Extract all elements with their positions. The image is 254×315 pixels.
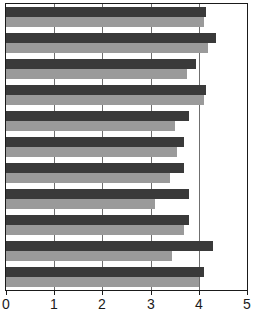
x-tick-label: 4 [195, 296, 203, 312]
bar [6, 163, 184, 173]
bar [6, 147, 177, 157]
bar [6, 59, 196, 69]
bar [6, 173, 170, 183]
x-tick-label: 1 [50, 296, 58, 312]
bar [6, 69, 187, 79]
bar-group [6, 134, 247, 160]
bar-group [6, 82, 247, 108]
bar [6, 215, 189, 225]
x-axis: 012345 [5, 291, 248, 315]
x-tick-label: 2 [98, 296, 106, 312]
bar-group [6, 108, 247, 134]
bar [6, 225, 184, 235]
bar [6, 189, 189, 199]
bar [6, 95, 204, 105]
bar-group [6, 238, 247, 264]
x-tick-label: 3 [147, 296, 155, 312]
bar-group [6, 4, 247, 30]
x-tick-mark [102, 291, 103, 295]
bar [6, 43, 208, 53]
bar-group [6, 160, 247, 186]
bar [6, 251, 172, 261]
bar-group [6, 30, 247, 56]
x-tick-label: 0 [2, 296, 10, 312]
bar [6, 33, 216, 43]
bar-group [6, 56, 247, 82]
bar-chart: 012345 [0, 0, 254, 315]
bar [6, 267, 204, 277]
bar-group [6, 212, 247, 238]
bar [6, 121, 175, 131]
x-tick-mark [54, 291, 55, 295]
bar-group [6, 186, 247, 212]
bars-layer [6, 4, 247, 290]
bar [6, 7, 206, 17]
bar [6, 85, 206, 95]
bar [6, 111, 189, 121]
x-tick-mark [247, 291, 248, 295]
x-tick-mark [6, 291, 7, 295]
bar [6, 17, 204, 27]
bar [6, 199, 155, 209]
bar [6, 277, 199, 287]
bar [6, 241, 213, 251]
bar-group [6, 264, 247, 290]
plot-area [5, 3, 248, 291]
x-tick-mark [199, 291, 200, 295]
x-tick-label: 5 [243, 296, 251, 312]
x-tick-mark [151, 291, 152, 295]
bar [6, 137, 184, 147]
